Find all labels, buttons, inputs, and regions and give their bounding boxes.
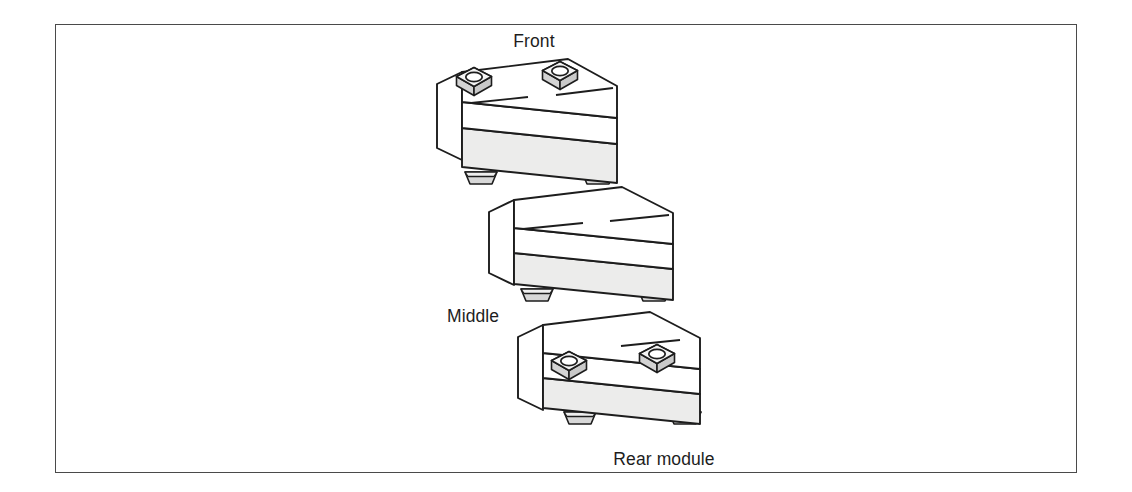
front-module-label: Front <box>513 31 554 51</box>
rear-module-label: Rear module <box>613 449 714 469</box>
rear-module-left-face <box>518 325 543 410</box>
middle-module-foot-left <box>521 289 553 301</box>
module-assembly-diagram: Front Middle Rear module <box>0 0 1132 492</box>
middle-module-label: Middle <box>447 306 499 326</box>
front-module-foot-left <box>465 172 497 184</box>
middle-module-left-face <box>489 200 514 285</box>
middle-module[interactable]: Middle <box>447 187 673 326</box>
rear-module[interactable]: Rear module <box>518 312 715 469</box>
figure-root: Front Middle Rear module <box>0 0 1132 492</box>
front-module[interactable]: Front <box>437 31 617 184</box>
